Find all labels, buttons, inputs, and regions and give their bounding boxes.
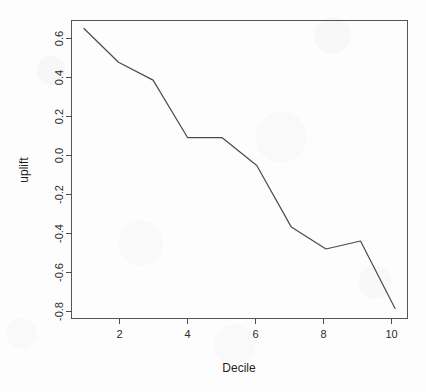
x-tick-label: 6 — [252, 328, 258, 340]
y-tick-label: 0.4 — [53, 70, 65, 85]
y-axis-title: uplift — [17, 157, 31, 183]
y-tick-label: -0.6 — [53, 263, 65, 282]
x-axis-title: Decile — [222, 361, 256, 375]
y-tick-label: -0.2 — [53, 185, 65, 204]
chart-canvas: 0.6 0.4 0.2 0.0 -0.2 -0.4 -0.6 -0.8 2 4 … — [0, 0, 426, 392]
x-tick-label: 10 — [385, 328, 397, 340]
uplift-data-line — [84, 28, 395, 308]
x-tick-label: 8 — [320, 328, 326, 340]
y-tick-label: 0.0 — [53, 148, 65, 163]
y-tick-label: -0.4 — [53, 224, 65, 243]
y-tick-label: 0.6 — [53, 31, 65, 46]
uplift-by-decile-line-chart: 0.6 0.4 0.2 0.0 -0.2 -0.4 -0.6 -0.8 2 4 … — [0, 0, 426, 392]
y-axis-ticks — [66, 39, 72, 312]
x-axis-tick-labels: 2 4 6 8 10 — [116, 328, 397, 340]
y-axis-tick-labels: 0.6 0.4 0.2 0.0 -0.2 -0.4 -0.6 -0.8 — [53, 31, 65, 321]
x-axis-ticks — [120, 319, 392, 325]
plot-frame — [72, 21, 408, 319]
y-tick-label: -0.8 — [53, 302, 65, 321]
x-tick-label: 2 — [116, 328, 122, 340]
y-tick-label: 0.2 — [53, 109, 65, 124]
x-tick-label: 4 — [184, 328, 190, 340]
